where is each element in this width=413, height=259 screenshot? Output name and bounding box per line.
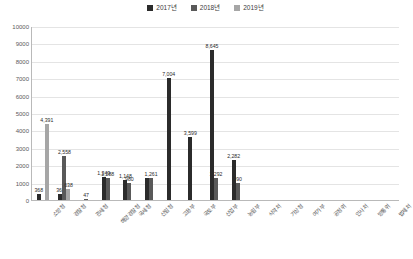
bar-group: 1,148980: [119, 27, 141, 200]
x-axis-tick-label: 국토부: [203, 203, 219, 219]
x-axis-tick-label: 인사처: [354, 203, 370, 219]
y-axis-tick-label: 3000: [16, 146, 29, 152]
legend-label: 2018년: [200, 4, 220, 12]
bar-slot: [370, 27, 374, 200]
x-axis-tick-label: 여가부: [311, 203, 327, 219]
bar-group: [378, 27, 400, 200]
bar-slot: [240, 27, 244, 200]
bar-slot: [391, 27, 395, 200]
x-axis-tick-label: 산림청: [159, 203, 175, 219]
x-axis-tick-label: 고용부: [181, 203, 197, 219]
bar-slot: [326, 27, 330, 200]
legend-label: 2019년: [243, 4, 263, 12]
bar-slot: [348, 27, 352, 200]
bar-group: 47: [75, 27, 97, 200]
y-axis-tick-label: 6000: [16, 94, 29, 100]
bar-slot: [175, 27, 179, 200]
y-axis-tick-label: 4000: [16, 128, 29, 134]
x-axis-tick-label: 농림부: [246, 203, 262, 219]
bar-group: 3662,558638: [54, 27, 76, 200]
x-axis-tick-label: 산업부: [224, 203, 240, 219]
x-axis-tick-label: 공정위: [333, 203, 349, 219]
legend-swatch-icon: [234, 5, 240, 11]
legend-swatch-icon: [147, 5, 153, 11]
bar-value-label: 638: [64, 182, 73, 188]
bar-slot: [131, 27, 135, 200]
legend-item-2018년[interactable]: 2018년: [191, 4, 220, 12]
bar-group: 1,261: [140, 27, 162, 200]
x-axis-tick-label: 법제처: [398, 203, 413, 219]
y-axis-tick-label: 1000: [16, 181, 29, 187]
bar-group: 3,599: [184, 27, 206, 200]
bar[interactable]: [45, 124, 49, 200]
bar-slot: [110, 27, 114, 200]
bar-group: [270, 27, 292, 200]
bar-slot: [218, 27, 222, 200]
bar-group: 8,6451,292: [205, 27, 227, 200]
bar-group: [248, 27, 270, 200]
bar-slot: [153, 27, 157, 200]
bar-slot: 4,391: [45, 27, 49, 200]
y-axis-tick-label: 0: [26, 198, 29, 204]
bar-group: [292, 27, 314, 200]
bar-group: [313, 27, 335, 200]
y-axis-tick-label: 10000: [12, 24, 29, 30]
legend-swatch-icon: [191, 5, 197, 11]
bar-slot: [196, 27, 200, 200]
y-axis-tick-label: 8000: [16, 59, 29, 65]
bar-slot: [283, 27, 287, 200]
y-axis-tick-label: 2000: [16, 163, 29, 169]
bar-slot: [88, 27, 92, 200]
legend-item-2019년[interactable]: 2019년: [234, 4, 263, 12]
plot-area: 0100020003000400050006000700080009000100…: [31, 27, 399, 201]
legend-item-2017년[interactable]: 2017년: [147, 4, 176, 12]
x-axis-tick-label: 식약처: [268, 203, 284, 219]
bar-series-container: 3684,3913662,558638471,3431,2881,1489801…: [32, 27, 399, 200]
bar-group: 1,3431,288: [97, 27, 119, 200]
bar-slot: [305, 27, 309, 200]
y-axis-tick-label: 5000: [16, 111, 29, 117]
bar-group: 3684,391: [32, 27, 54, 200]
bar-group: 2,282990: [227, 27, 249, 200]
x-axis-tick-label: 기상청: [289, 203, 305, 219]
y-axis-tick-label: 7000: [16, 76, 29, 82]
bar-group: [357, 27, 379, 200]
bar-slot: [261, 27, 265, 200]
bar-group: 7,004: [162, 27, 184, 200]
bar[interactable]: [66, 189, 70, 200]
bar-slot: 638: [66, 27, 70, 200]
x-axis-tick-label: 방통위: [376, 203, 392, 219]
legend-label: 2017년: [156, 4, 176, 12]
x-axis-labels: 소방청경찰청관세청해양경찰청국세청산림청고용부국토부산업부농림부식약처기상청여가…: [31, 203, 399, 259]
x-axis-tick-label: 관세청: [95, 203, 111, 219]
x-axis-tick-label: 소방청: [51, 203, 67, 219]
bar-value-label: 4,391: [40, 117, 53, 123]
x-axis-tick-label: 경찰청: [73, 203, 89, 219]
y-axis-tick-label: 9000: [16, 41, 29, 47]
bar-group: [335, 27, 357, 200]
chart-legend: 2017년2018년2019년: [0, 4, 411, 12]
